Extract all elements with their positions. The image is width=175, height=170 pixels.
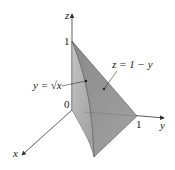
diagram-canvas	[0, 0, 175, 170]
x-axis-label: x	[13, 148, 18, 159]
curve-annotation: y = √x	[33, 80, 62, 91]
origin-label: 0	[64, 99, 70, 110]
plane-annotation: z = 1 − y	[112, 59, 153, 70]
y-axis-label: y	[160, 120, 165, 131]
x-axis	[22, 110, 72, 155]
solid-region-diagram: z 1 0 1 y x y = √x z = 1 − y	[0, 0, 175, 170]
plane-leader-dot	[103, 88, 105, 90]
z-axis-label: z	[65, 10, 69, 21]
y-tick-one: 1	[136, 119, 142, 130]
z-tick-one: 1	[64, 36, 70, 47]
curve-leader-dot	[85, 80, 87, 82]
